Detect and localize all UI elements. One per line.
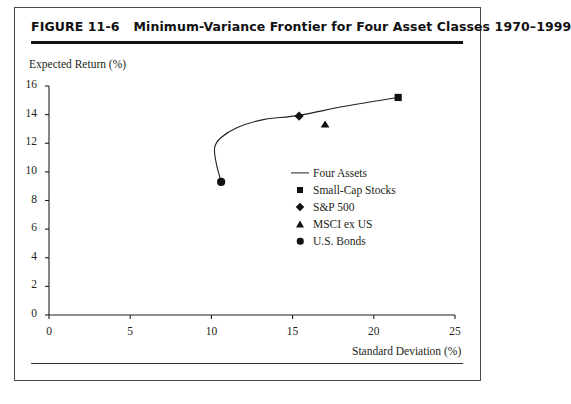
figure-title-text: Minimum-Variance Frontier for Four Asset… — [134, 19, 571, 34]
figure-caption: FIGURE 11-6Minimum-Variance Frontier for… — [31, 19, 571, 34]
title-divider — [31, 41, 463, 44]
figure-number: FIGURE 11-6 — [31, 19, 120, 34]
figure-frame: FIGURE 11-6Minimum-Variance Frontier for… — [14, 7, 481, 381]
bottom-divider — [31, 363, 463, 364]
